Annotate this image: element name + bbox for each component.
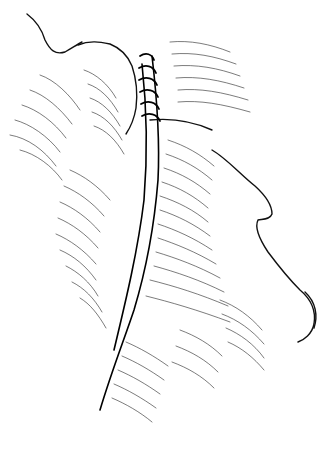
incision-line	[100, 56, 212, 410]
surgical-illustration	[0, 0, 329, 464]
face-profile-contour	[212, 150, 316, 342]
